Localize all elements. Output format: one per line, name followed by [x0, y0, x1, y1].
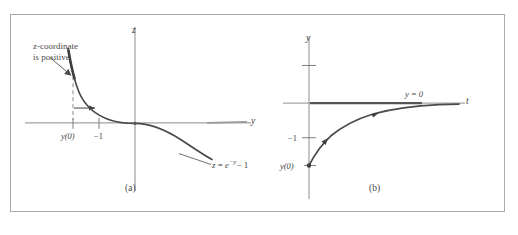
panel-b-tick-label-minus-one: −1: [288, 133, 297, 143]
panel-a-curve-equation: z = e−y− 1: [212, 160, 248, 171]
panel-b-graphic: [259, 15, 506, 211]
figure-frame: z-coordinate is positive z y y(0) −1 z =…: [10, 14, 505, 212]
panel-a-annotation-line1: z-coordinate: [33, 41, 78, 51]
panel-a-equation-tail: − 1: [236, 160, 248, 170]
panel-a-vertical-axis-label: z: [132, 25, 136, 36]
panel-a-tick-label-minus-one: −1: [94, 131, 103, 141]
panel-b-caption: (b): [369, 183, 380, 194]
panel-a-origin-point: [133, 122, 136, 125]
panel-a-horizontal-axis-label: y: [251, 116, 255, 127]
panel-a-caption: (a): [125, 183, 136, 194]
panel-a: z-coordinate is positive z y y(0) −1 z =…: [11, 15, 259, 211]
figure-root: z-coordinate is positive z y y(0) −1 z =…: [0, 0, 518, 235]
panel-a-tick-label-y0: y(0): [61, 131, 75, 141]
panel-b-horizontal-axis-label: t: [466, 96, 469, 107]
panel-b: y t y = 0 −1 y(0) (b): [259, 15, 506, 211]
panel-a-equation-lhs: z: [212, 160, 216, 170]
panel-a-horizontal-axis-tip: [207, 122, 247, 123]
panel-b-solution-curve: [309, 104, 459, 165]
panel-b-initial-value-label: y(0): [280, 161, 294, 171]
panel-a-annotation-line2: is positive: [33, 52, 70, 62]
panel-b-initial-value-point: [307, 163, 311, 167]
panel-a-curve: [68, 49, 212, 160]
panel-a-annotation-text: z-coordinate is positive: [33, 41, 109, 62]
panel-b-equilibrium-label: y = 0: [405, 89, 423, 99]
panel-a-equation-equals: =: [218, 160, 223, 170]
panel-b-vertical-axis-label: y: [306, 33, 310, 44]
